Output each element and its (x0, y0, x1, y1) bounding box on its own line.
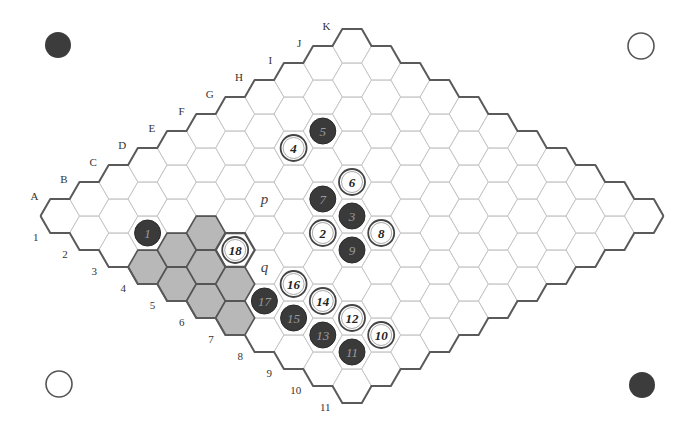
move-number: 10 (375, 328, 389, 343)
stone-8: 8 (368, 220, 394, 246)
column-label: J (297, 37, 302, 49)
stone-2: 2 (310, 220, 336, 246)
move-number: 1 (144, 226, 151, 241)
move-number: 18 (229, 243, 243, 258)
corner-top-left-black-stone-icon (45, 32, 71, 58)
marker-q: q (261, 259, 269, 275)
stone-4: 4 (281, 135, 307, 161)
column-label: H (235, 71, 243, 83)
stone-12: 12 (339, 305, 365, 331)
move-number: 9 (349, 243, 356, 258)
row-label: 10 (290, 384, 302, 396)
row-label: 8 (237, 350, 243, 362)
move-number: 4 (289, 141, 297, 156)
stone-17: 17 (251, 288, 277, 314)
row-label: 9 (267, 367, 273, 379)
corner-bottom-left-white-stone-icon (46, 371, 72, 397)
stone-9: 9 (339, 237, 365, 263)
stone-7: 7 (310, 186, 336, 212)
column-label: G (206, 88, 214, 100)
stone-18: 18 (222, 237, 248, 263)
move-number: 14 (316, 294, 330, 309)
column-label: E (149, 122, 156, 134)
column-label: B (60, 173, 67, 185)
move-number: 15 (287, 311, 301, 326)
row-label: 1 (33, 231, 39, 243)
stone-1: 1 (135, 220, 161, 246)
column-label: D (118, 139, 126, 151)
move-number: 3 (348, 209, 356, 224)
stone-11: 11 (339, 339, 365, 365)
column-label: C (90, 156, 97, 168)
stone-5: 5 (310, 118, 336, 144)
stone-16: 16 (281, 271, 307, 297)
stone-13: 13 (310, 322, 336, 348)
hex-board: ABCDEFGHIJK1234567891011 pq 123456789101… (0, 0, 692, 428)
row-label: 5 (150, 299, 156, 311)
move-number: 16 (287, 277, 301, 292)
move-number: 17 (258, 294, 272, 309)
column-label: I (268, 54, 272, 66)
stone-3: 3 (339, 203, 365, 229)
stone-10: 10 (368, 322, 394, 348)
row-label: 3 (91, 265, 97, 277)
move-number: 2 (319, 226, 327, 241)
row-label: 6 (179, 316, 185, 328)
move-number: 5 (320, 124, 327, 139)
corner-bottom-right-black-stone-icon (629, 372, 655, 398)
column-label: A (31, 190, 39, 202)
corner-top-right-white-stone-icon (628, 33, 654, 59)
move-number: 6 (349, 175, 356, 190)
column-label: K (323, 20, 331, 32)
move-number: 12 (346, 311, 360, 326)
stone-14: 14 (310, 288, 336, 314)
move-number: 13 (316, 328, 330, 343)
marker-p: p (260, 191, 269, 207)
column-label: F (178, 105, 184, 117)
stone-15: 15 (281, 305, 307, 331)
move-number: 7 (320, 192, 327, 207)
move-number: 8 (378, 226, 385, 241)
move-number: 11 (346, 345, 358, 360)
row-label: 2 (62, 248, 68, 260)
row-label: 7 (208, 333, 214, 345)
stone-6: 6 (339, 169, 365, 195)
row-label: 4 (121, 282, 127, 294)
row-label: 11 (320, 401, 331, 413)
